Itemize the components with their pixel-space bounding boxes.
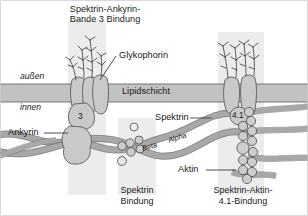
actin-bead-large: [237, 142, 249, 154]
actin-bead: [246, 116, 255, 125]
bead: [126, 139, 134, 147]
actin-bead: [248, 147, 257, 156]
actin-bead: [238, 165, 247, 174]
bead: [118, 142, 126, 150]
actin-bead: [242, 174, 251, 183]
label-lipidschicht: Lipidschicht: [122, 86, 170, 96]
actin-bead: [238, 121, 247, 130]
actin-bead: [247, 157, 256, 166]
figure-title: Spektrin-Ankyrin- Bande 3 Bindung: [40, 4, 170, 25]
label-glykophorin: Glykophorin: [119, 50, 168, 60]
actin-bead: [238, 131, 247, 140]
spectrin-branch-lr-core: [248, 156, 308, 159]
label-aussen: außen: [20, 72, 44, 82]
actin-bead: [238, 155, 247, 164]
bead-free-upper: [130, 123, 138, 131]
label-aktin: Aktin: [178, 164, 198, 174]
label-ankyrin: Ankyrin: [8, 127, 39, 137]
glycophorin-transmembrane: [93, 75, 109, 114]
ankyrin-blob: [62, 126, 92, 164]
node-label-band3: 3: [78, 112, 83, 121]
caption-spektrin-aktin-41: Spektrin-Aktin- 4.1-Bindung: [198, 185, 288, 208]
actin-bead: [247, 126, 256, 135]
figure-canvas: [0, 0, 308, 216]
label-spektrin: Spektrin: [155, 112, 189, 122]
node-label-band41: 4.1: [232, 111, 244, 120]
bead: [127, 148, 135, 156]
actin-bead: [244, 107, 253, 116]
caption-spektrin-bindung: Spektrin Bindung: [102, 185, 172, 208]
actin-bead: [247, 136, 256, 145]
bead-free-lower: [118, 157, 127, 166]
spectrin-branch-mr-core: [248, 128, 308, 132]
membrane-cytoskeleton-figure: Spektrin-Ankyrin- Bande 3 Bindung außen …: [0, 0, 308, 216]
label-innen: innen: [20, 103, 41, 113]
